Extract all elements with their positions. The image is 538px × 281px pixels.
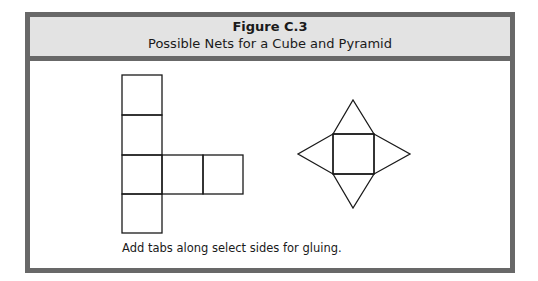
nets-diagram <box>30 17 510 268</box>
pyramid-face-right <box>374 134 410 174</box>
cube-face-5 <box>203 155 243 194</box>
pyramid-face-left <box>298 134 333 174</box>
figure-caption: Add tabs along select sides for gluing. <box>122 241 342 255</box>
figure-frame: Figure C.3 Possible Nets for a Cube and … <box>25 12 515 273</box>
cube-net <box>122 75 243 233</box>
pyramid-net <box>298 100 410 208</box>
pyramid-face-bottom <box>333 174 374 208</box>
cube-face-2 <box>122 115 162 155</box>
cube-face-1 <box>122 75 162 115</box>
cube-face-4 <box>162 155 203 194</box>
cube-face-6 <box>122 194 162 233</box>
cube-face-3 <box>122 155 162 194</box>
pyramid-base <box>333 134 374 174</box>
pyramid-face-top <box>333 100 374 134</box>
